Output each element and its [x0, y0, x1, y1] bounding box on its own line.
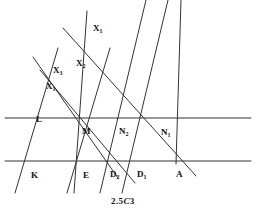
label-subscript: 1 — [100, 28, 103, 34]
ray-A-N1 — [176, 0, 181, 164]
label-base: X — [93, 23, 100, 33]
point-label-m: M — [82, 127, 91, 136]
point-label-a: A — [176, 170, 183, 179]
label-subscript: 2 — [117, 174, 120, 180]
label-subscript: 1 — [168, 132, 171, 138]
point-label-d1: D1 — [137, 170, 147, 179]
point-label-x1-left: X1 — [46, 82, 56, 91]
label-subscript: 2 — [83, 63, 86, 69]
label-subscript: 1 — [53, 86, 56, 92]
figure-canvas — [0, 0, 256, 214]
label-subscript: 2 — [126, 131, 129, 137]
label-base: A — [176, 169, 183, 179]
point-label-d2: D2 — [110, 170, 120, 179]
label-base: N — [119, 126, 126, 136]
label-base: X — [76, 58, 83, 68]
transversal-3 — [100, 0, 146, 193]
label-base: N — [161, 127, 168, 137]
label-base: D — [110, 169, 117, 179]
point-label-x3-mid: X3 — [53, 66, 63, 75]
label-base: L — [36, 114, 42, 124]
caption-suffix: 3 — [130, 196, 135, 206]
lines-group — [5, 0, 251, 193]
ray-M-X1 — [74, 11, 87, 193]
label-base: D — [137, 169, 144, 179]
label-subscript: 1 — [144, 174, 147, 180]
point-label-n2: N2 — [119, 127, 129, 136]
label-base: X — [53, 65, 60, 75]
figure-caption: 2.5C3 — [111, 196, 135, 206]
label-base: E — [83, 170, 89, 180]
label-base: X — [46, 81, 53, 91]
point-label-x2-mid: X2 — [76, 59, 86, 68]
point-label-x1-top: X1 — [93, 24, 103, 33]
caption-prefix: 2.5 — [111, 196, 123, 206]
label-base: K — [31, 170, 38, 180]
point-label-e: E — [83, 171, 89, 180]
geometry-figure: X1X2X3X1LMN2N1KED2D1A 2.5C3 — [0, 0, 256, 214]
point-label-l: L — [36, 115, 42, 124]
point-label-k: K — [31, 171, 38, 180]
label-subscript: 3 — [60, 70, 63, 76]
label-base: M — [82, 126, 91, 136]
transversal-4 — [122, 0, 168, 193]
point-label-n1: N1 — [161, 128, 171, 137]
